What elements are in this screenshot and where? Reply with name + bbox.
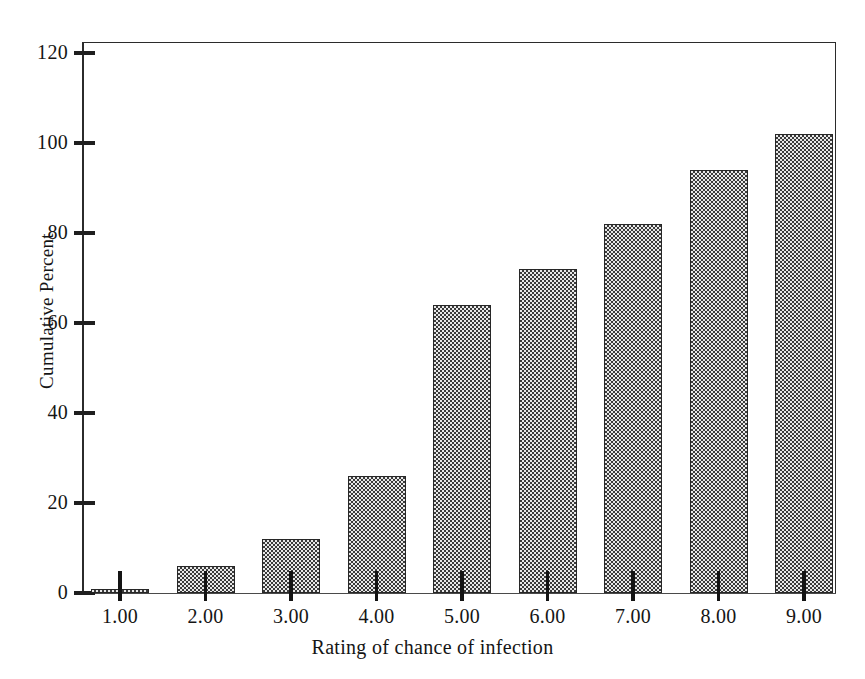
y-tick-40 bbox=[74, 411, 95, 414]
y-tick-label-0: 0 bbox=[58, 582, 68, 602]
x-tick-label-3.00: 3.00 bbox=[273, 605, 309, 627]
x-tick-label-2.00: 2.00 bbox=[188, 605, 224, 627]
x-axis-title: Rating of chance of infection bbox=[0, 636, 865, 659]
bar-6.00 bbox=[519, 269, 577, 593]
y-tick-label-100: 100 bbox=[37, 132, 68, 152]
x-tick-4.00 bbox=[375, 571, 378, 601]
cumulative-percent-bar-chart: 020406080100120 1.002.003.004.005.006.00… bbox=[0, 0, 865, 679]
x-tick-label-6.00: 6.00 bbox=[530, 605, 566, 627]
x-tick-1.00 bbox=[118, 571, 121, 601]
bar-5.00 bbox=[433, 305, 491, 593]
x-tick-6.00 bbox=[546, 571, 549, 601]
x-tick-2.00 bbox=[204, 571, 207, 601]
x-tick-5.00 bbox=[460, 571, 463, 601]
y-tick-60 bbox=[74, 321, 95, 324]
bar-9.00 bbox=[775, 134, 833, 593]
x-tick-7.00 bbox=[631, 571, 634, 601]
x-tick-label-1.00: 1.00 bbox=[102, 605, 138, 627]
y-axis-title: Cumulative Percent bbox=[36, 161, 58, 461]
y-tick-100 bbox=[74, 141, 95, 144]
x-tick-label-9.00: 9.00 bbox=[786, 605, 822, 627]
x-tick-label-4.00: 4.00 bbox=[359, 605, 395, 627]
x-tick-label-7.00: 7.00 bbox=[615, 605, 651, 627]
y-tick-120 bbox=[74, 51, 95, 54]
bar-7.00 bbox=[604, 224, 662, 593]
x-tick-9.00 bbox=[802, 571, 805, 601]
bar-8.00 bbox=[690, 170, 748, 593]
x-tick-8.00 bbox=[717, 571, 720, 601]
y-tick-20 bbox=[74, 501, 95, 504]
x-tick-label-5.00: 5.00 bbox=[444, 605, 480, 627]
x-tick-label-8.00: 8.00 bbox=[701, 605, 737, 627]
x-tick-3.00 bbox=[289, 571, 292, 601]
y-tick-label-20: 20 bbox=[47, 492, 68, 512]
y-tick-80 bbox=[74, 231, 95, 234]
y-axis-line bbox=[82, 42, 84, 594]
y-tick-label-120: 120 bbox=[37, 42, 68, 62]
